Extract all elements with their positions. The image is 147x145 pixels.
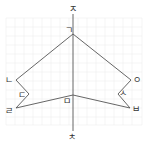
axis-top-label: ㅈ — [69, 4, 77, 14]
point-label-d: ㄷ — [18, 90, 26, 100]
point-label-o: ㅇ — [133, 75, 141, 85]
axis-bottom-label: ㅊ — [68, 132, 76, 142]
point-label-g: ㄱ — [65, 25, 73, 35]
symmetry-diagram: ㅈ ㅊ ㄱ ㄴ ㄷ ㄹ ㅁ ㅂ ㅅ ㅇ — [0, 0, 147, 145]
point-label-r: ㄹ — [5, 106, 13, 116]
point-label-m: ㅁ — [63, 96, 71, 106]
point-label-s: ㅅ — [119, 88, 127, 98]
point-label-n: ㄴ — [5, 75, 13, 85]
point-label-b: ㅂ — [132, 104, 140, 114]
